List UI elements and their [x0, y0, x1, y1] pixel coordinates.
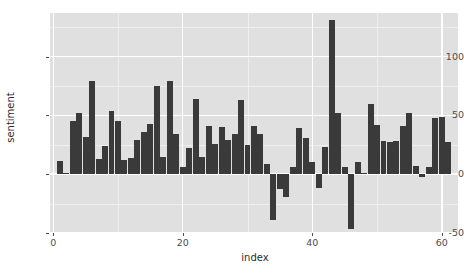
x-tick-mark: [312, 233, 313, 236]
x-tick-label: 20: [168, 238, 198, 248]
x-axis-title: index: [50, 252, 460, 263]
x-tick-label: 40: [297, 238, 327, 248]
x-tick-label: 60: [427, 238, 457, 248]
x-tick-label: 0: [38, 238, 68, 248]
x-axis-ticks: 0204060: [0, 0, 464, 277]
x-tick-mark: [183, 233, 184, 236]
x-tick-mark: [442, 233, 443, 236]
x-axis-title-text: index: [241, 252, 268, 263]
bar-chart-figure: sentiment -50050100 0204060 index: [0, 0, 464, 277]
x-tick-mark: [53, 233, 54, 236]
